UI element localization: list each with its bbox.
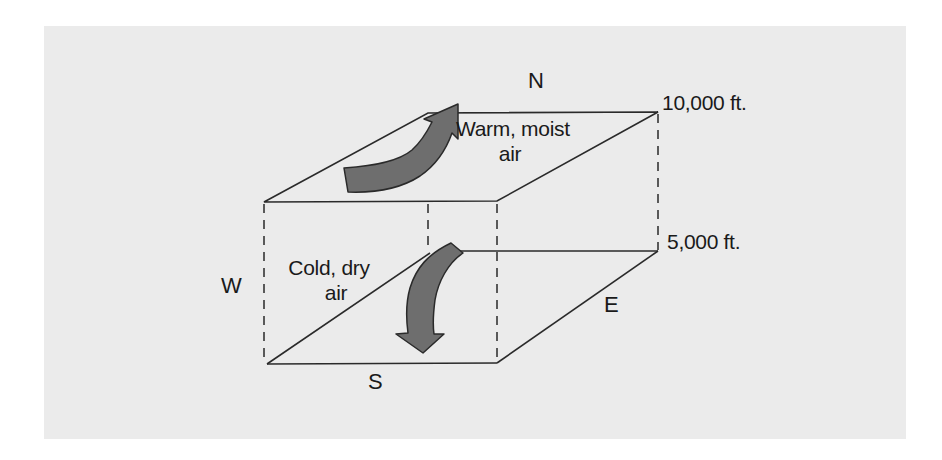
warm-moist-air-label: Warm, moist air: [456, 118, 564, 164]
direction-north-label: N: [528, 70, 544, 92]
cold-dry-air-line1: Cold, dry: [279, 257, 379, 278]
altitude-upper-label: 10,000 ft.: [662, 92, 747, 113]
warm-moist-air-line2: air: [456, 143, 564, 164]
direction-east-label: E: [604, 294, 618, 316]
cold-dry-air-line2: air: [279, 282, 379, 303]
cold-dry-air-label: Cold, dry air: [279, 257, 379, 303]
warm-moist-air-line1: Warm, moist: [456, 118, 564, 139]
curved-arrow-down-icon: [396, 243, 463, 353]
direction-west-label: W: [221, 275, 241, 297]
direction-south-label: S: [368, 371, 382, 393]
air-mass-box-diagram: [0, 0, 942, 460]
curved-arrow-up-right-icon: [344, 104, 458, 192]
altitude-lower-label: 5,000 ft.: [667, 231, 740, 252]
